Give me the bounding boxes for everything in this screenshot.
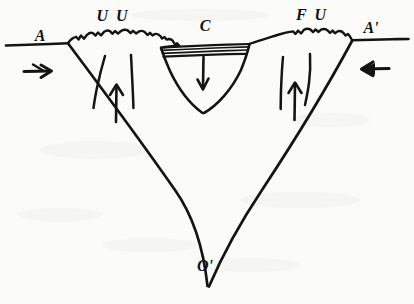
- left-uplift-topography: [68, 30, 179, 46]
- label-right-endpoint: A': [362, 19, 379, 36]
- left-fault-line-b: [131, 55, 133, 108]
- cross-section-sketch: A A' U U F U C O': [0, 0, 414, 304]
- label-center-block: C: [200, 17, 211, 34]
- figure-root: A A' U U F U C O': [0, 0, 414, 304]
- right-fault-line-b: [305, 54, 310, 105]
- right-uplift-topography: [249, 29, 352, 44]
- label-right-uplift: F U: [295, 6, 328, 23]
- center-subsidence-arrow: [198, 57, 209, 90]
- left-compression-arrow: [24, 65, 52, 78]
- ground-line-right: [352, 39, 409, 40]
- label-left-endpoint: A: [34, 27, 46, 44]
- right-uplift-arrow: [289, 83, 302, 121]
- right-compression-arrow: [362, 62, 390, 76]
- label-apex: O': [197, 257, 214, 274]
- graben-left-fault: [161, 48, 203, 113]
- right-fault-line-a: [281, 57, 283, 109]
- label-left-uplift: U U: [96, 7, 129, 24]
